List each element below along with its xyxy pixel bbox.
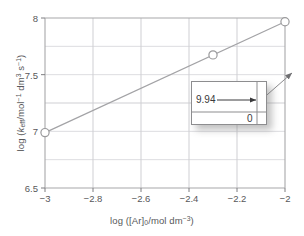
y-axis-label: log (keff/mol−1 dm3 s−1) [15,55,26,152]
x-axis-label-pre: log ([Ar] [110,215,144,226]
x-axis-label: log ([Ar]0/mol dm−3) [0,215,304,226]
callout-value-label: 9.94 [196,94,215,105]
y-axis-label-sub: eff [19,120,26,128]
data-point [281,18,289,26]
y-axis-label-mid2: dm [15,77,26,93]
x-tick-label: −2 [280,193,291,204]
x-tick-label: −2.2 [228,193,247,204]
y-axis-label-sup2: 3 [15,73,22,77]
y-axis-label-pre: log ( [15,132,26,151]
data-point [41,129,49,137]
x-axis-label-sup: −3 [183,215,191,222]
y-axis-label-mid: /mol [15,101,26,119]
data-point [209,51,217,59]
y-axis-label-sup1: −1 [15,93,22,101]
y-axis-label-wrapper: log (keff/mol−1 dm3 s−1) [10,18,28,188]
y-axis-ticks [41,18,45,188]
x-tick-label: −2.4 [180,193,199,204]
x-axis-label-mid: /mol dm [148,215,182,226]
y-axis-label-post: ) [15,55,26,58]
x-axis-label-post: ) [191,215,194,226]
y-axis-label-sup3: −1 [15,58,22,66]
x-tick-label: −2.6 [132,193,151,204]
x-tick-label: −2.8 [84,193,103,204]
x-axis-ticks [45,188,285,192]
x-tick-label: −3 [40,193,51,204]
y-axis-label-symbol: k [15,128,26,133]
y-axis-label-mid3: s [15,66,26,74]
callout-zero-label: 0 [247,113,253,124]
